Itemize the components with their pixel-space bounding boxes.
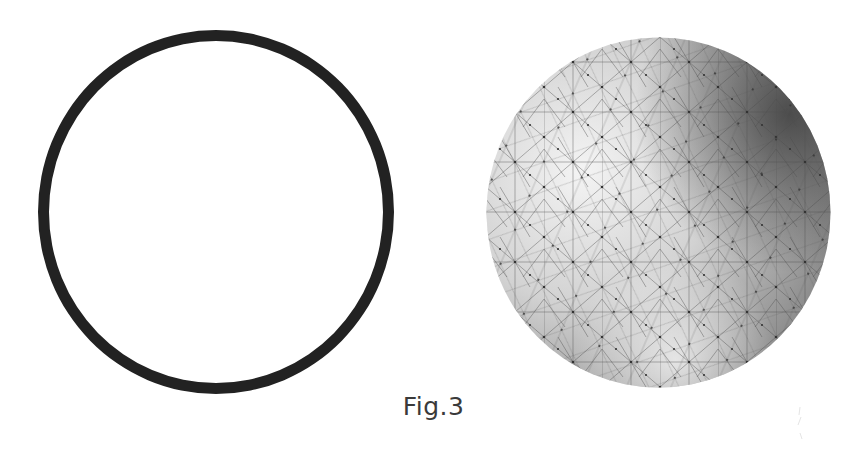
sphere-mesh-graphic xyxy=(486,37,831,388)
scan-artifact xyxy=(795,405,805,441)
figure: Fig.3 xyxy=(0,0,867,451)
figure-caption: Fig.3 xyxy=(0,392,867,421)
triangulated-sphere xyxy=(486,37,831,388)
plain-circle-outline xyxy=(38,30,394,394)
